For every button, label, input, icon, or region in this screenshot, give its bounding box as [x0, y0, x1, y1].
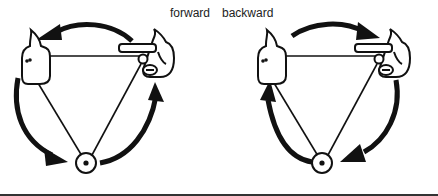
bottom-circled-dot-icon — [76, 153, 96, 173]
edge-right-bottom — [328, 64, 377, 155]
arc-right-to-left — [56, 25, 132, 41]
arrowhead-to-right-hand — [356, 22, 380, 40]
bottom-circled-dot-icon — [312, 153, 332, 173]
backward-cycle-diagram — [236, 0, 436, 190]
edge-left-bottom — [38, 83, 82, 156]
arrowhead-to-bottom — [340, 144, 366, 162]
forward-cycle-diagram — [0, 0, 200, 190]
arc-left-to-right — [292, 24, 364, 36]
triangle-edges — [38, 56, 141, 156]
arrowhead-to-right-hand — [148, 82, 164, 102]
arc-bottom-to-right — [100, 96, 156, 163]
left-hand-fist-icon — [258, 30, 286, 84]
triangle-edges — [274, 56, 377, 156]
arc-left-to-bottom — [16, 78, 52, 155]
bottom-divider — [0, 194, 438, 196]
arrowhead-to-left-hand — [36, 24, 62, 40]
arrowhead-to-bottom — [44, 148, 68, 166]
arc-right-to-bottom — [364, 80, 397, 152]
edge-left-bottom — [274, 83, 318, 156]
